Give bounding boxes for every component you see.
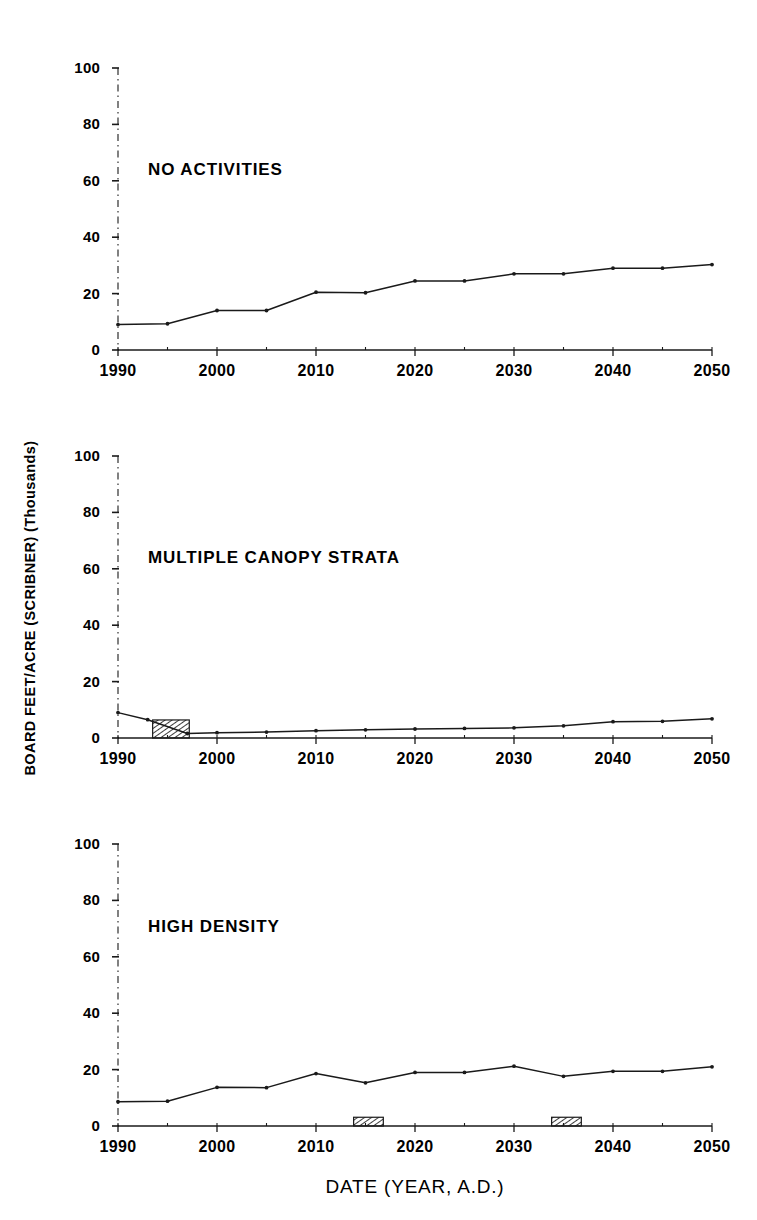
- data-point-marker: [413, 1071, 417, 1075]
- harvest-bar: [552, 1117, 582, 1126]
- data-point-marker: [512, 1064, 516, 1068]
- data-point-marker: [364, 1081, 368, 1085]
- data-point-marker: [661, 1069, 665, 1073]
- data-point-marker: [611, 1069, 615, 1073]
- data-point-marker: [562, 1074, 566, 1078]
- data-point-marker: [314, 1072, 318, 1076]
- figure-root: BOARD FEET/ACRE (SCRIBNER) (Thousands) D…: [0, 0, 757, 1220]
- data-point-marker: [215, 1085, 219, 1089]
- plot-area: [0, 0, 757, 1220]
- data-point-marker: [710, 1065, 714, 1069]
- data-point-marker: [116, 1100, 120, 1104]
- data-point-marker: [463, 1071, 467, 1075]
- data-point-marker: [166, 1099, 170, 1103]
- harvest-bar: [354, 1117, 384, 1126]
- data-point-marker: [265, 1086, 269, 1090]
